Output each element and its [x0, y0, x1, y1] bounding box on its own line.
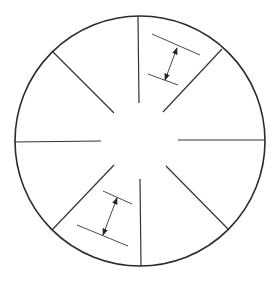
spoke-top-right — [163, 49, 222, 112]
radial-diagram — [0, 0, 274, 281]
double-arrow-icon — [103, 198, 117, 235]
spoke-top-left — [52, 51, 114, 113]
dimension-lower-line — [148, 74, 178, 85]
double-arrow-icon — [165, 48, 177, 80]
dimension-lower-line — [77, 225, 128, 246]
spoke-left — [14, 141, 101, 142]
spoke-bottom-right — [166, 166, 228, 229]
spoke-bottom — [140, 179, 141, 266]
dimension-upper-line — [103, 191, 132, 204]
spoke-bottom-left — [52, 165, 114, 230]
dimension-bottom-left — [77, 191, 132, 246]
spoke-top — [138, 16, 139, 103]
dimension-top-right — [148, 34, 200, 85]
